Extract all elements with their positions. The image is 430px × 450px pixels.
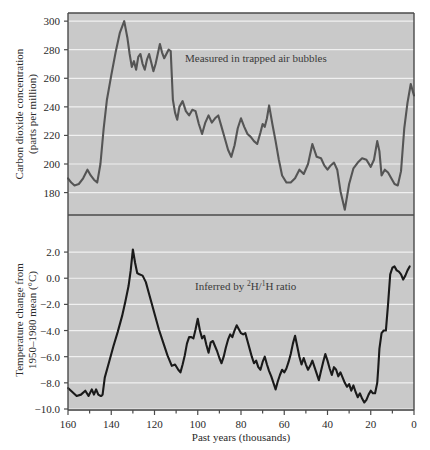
co2-y-axis-label: Carbon dioxide concentration (parts per … [13,48,39,179]
y-tick-label-temperature: −2.0 [40,298,60,310]
temp-annot-pre: Inferred by [195,280,247,292]
y-tick-label-co2: 240 [44,101,61,113]
x-tick-label: 20 [365,418,377,430]
x-tick-label: 120 [146,418,163,430]
temp-ylabel-line1: Temperature change from [13,263,25,377]
temperature-y-axis-label: Temperature change from 1950–1980 mean (… [13,263,39,377]
y-tick-label-temperature: 2.0 [46,246,60,258]
co2-annotation: Measured in trapped air bubbles [185,52,327,64]
y-tick-label-co2: 200 [44,158,61,170]
x-tick-label: 160 [60,418,77,430]
co2-ylabel-line1: Carbon dioxide concentration [13,48,25,179]
y-tick-label-temperature: 0.0 [46,272,60,284]
co2-ylabel-line2: (parts per million) [26,74,39,154]
y-tick-label-co2: 180 [44,187,61,199]
x-tick-label: 40 [322,418,334,430]
x-tick-label: 60 [279,418,291,430]
y-tick-label-temperature: −6.0 [40,351,60,363]
x-tick-label: 140 [103,418,120,430]
co2-panel-background [68,13,414,215]
y-tick-label-co2: 260 [44,72,61,84]
x-tick-label: 0 [411,418,417,430]
x-tick-label: 80 [236,418,248,430]
y-tick-label-temperature: −10.0 [35,403,61,415]
x-axis-label: Past years (thousands) [192,431,291,444]
x-tick-label: 100 [190,418,207,430]
temp-annot-post: H ratio [265,280,296,292]
y-tick-label-temperature: −8.0 [40,377,60,389]
temperature-panel-background [68,215,414,411]
chart-canvas: 3002802602402202001802.00.0−2.0−4.0−6.0−… [0,0,430,450]
temp-ylabel-line2: 1950–1980 mean (°C) [26,271,39,369]
y-tick-label-co2: 300 [44,15,61,27]
vostok-ice-core-figure: 3002802602402202001802.00.0−2.0−4.0−6.0−… [0,0,430,450]
y-tick-label-temperature: −4.0 [40,325,60,337]
y-tick-label-co2: 220 [44,129,61,141]
y-tick-label-co2: 280 [44,44,61,56]
temperature-annotation: Inferred by 2H/1H ratio [195,279,297,292]
